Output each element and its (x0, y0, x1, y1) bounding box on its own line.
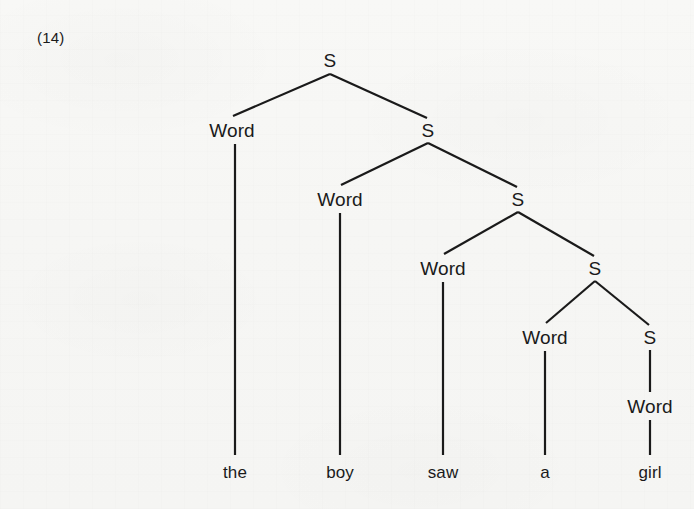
tree-node-s4: S (589, 259, 602, 278)
tree-node-s2: S (422, 121, 435, 140)
tree-edge (518, 212, 594, 256)
tree-edges-canvas (0, 0, 694, 509)
tree-edge (444, 212, 518, 254)
tree-node-word2: Word (317, 190, 362, 209)
tree-edge (233, 74, 330, 116)
tree-terminal-t2: boy (326, 464, 354, 481)
tree-edge (546, 281, 595, 323)
tree-node-s3: S (512, 190, 525, 209)
tree-node-word4: Word (522, 328, 567, 347)
tree-edge (595, 281, 649, 325)
tree-node-s1: S (324, 51, 337, 70)
tree-edge (428, 143, 517, 187)
tree-node-word5: Word (627, 397, 672, 416)
tree-terminal-t3: saw (428, 464, 459, 481)
tree-node-word3: Word (420, 259, 465, 278)
tree-node-s5: S (644, 328, 657, 347)
tree-edge (330, 74, 427, 118)
tree-node-word1: Word (209, 121, 254, 140)
tree-terminal-t1: the (223, 464, 247, 481)
tree-terminal-t4: a (540, 464, 550, 481)
tree-edge (341, 143, 428, 185)
figure-page: (14) SWordSWordSWordSWordSWord theboysaw… (0, 0, 694, 509)
tree-terminal-t5: girl (638, 464, 661, 481)
